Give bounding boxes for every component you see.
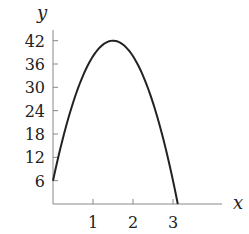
x-tick-label: 2 bbox=[128, 213, 138, 232]
y-tick-label: 12 bbox=[25, 148, 45, 167]
y-tick-label: 18 bbox=[25, 125, 45, 144]
y-tick-label: 36 bbox=[25, 55, 45, 74]
y-tick-label: 42 bbox=[25, 32, 45, 51]
chart: 6121824303642 123 y x bbox=[0, 0, 249, 234]
y-axis-label: y bbox=[36, 2, 48, 23]
x-tick-label: 3 bbox=[168, 213, 178, 232]
data-curve bbox=[53, 41, 178, 204]
y-tick-label: 30 bbox=[25, 78, 45, 97]
x-tick-label: 1 bbox=[88, 213, 98, 232]
y-tick-label: 6 bbox=[35, 172, 45, 191]
x-axis-label: x bbox=[233, 192, 243, 213]
y-tick-label: 24 bbox=[25, 102, 45, 121]
axes bbox=[53, 30, 222, 204]
